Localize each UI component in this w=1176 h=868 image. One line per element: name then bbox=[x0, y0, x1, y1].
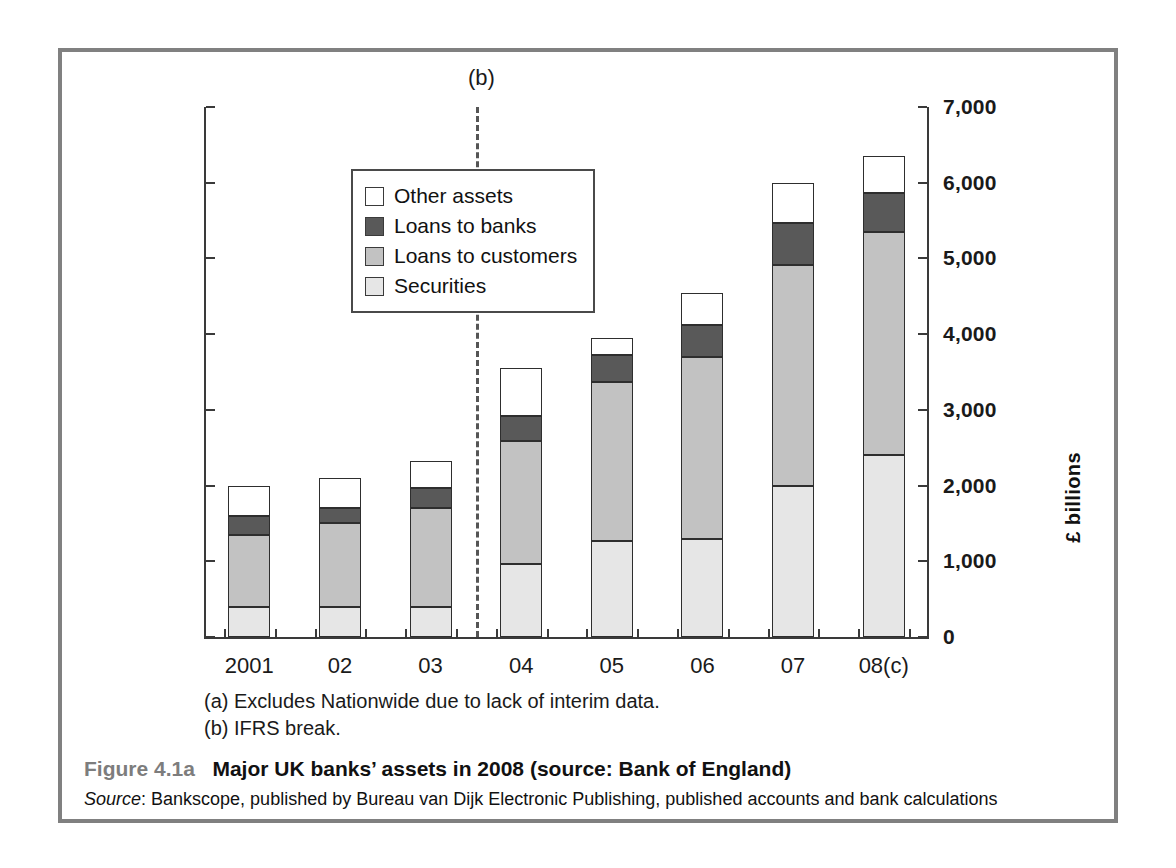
bar-segment-loans-to-customers bbox=[319, 523, 361, 606]
y-tick-label: 6,000 bbox=[943, 171, 997, 195]
bar-segment-loans-to-banks bbox=[863, 193, 905, 232]
caption-block: Figure 4.1a Major UK banks’ assets in 20… bbox=[84, 757, 1104, 810]
bar-segment-loans-to-banks bbox=[410, 488, 452, 508]
y-tick-label: 7,000 bbox=[943, 95, 997, 119]
y-tick-left bbox=[206, 560, 215, 562]
x-tick bbox=[547, 629, 549, 639]
y-tick-right bbox=[918, 182, 927, 184]
bar-02 bbox=[319, 478, 361, 637]
bar-segment-loans-to-customers bbox=[228, 535, 270, 607]
figure-caption-title: Major UK banks’ assets in 2008 (source: … bbox=[212, 757, 791, 780]
bar-03 bbox=[410, 461, 452, 637]
bar-08c bbox=[863, 156, 905, 637]
bar-segment-loans-to-customers bbox=[591, 382, 633, 541]
bar-segment-other-assets bbox=[591, 338, 633, 355]
y-tick-right bbox=[918, 257, 927, 259]
legend-swatch-loans-to-banks bbox=[365, 217, 384, 236]
bar-segment-securities bbox=[681, 539, 723, 637]
bar-segment-other-assets bbox=[319, 478, 361, 508]
legend-swatch-loans-to-customers bbox=[365, 247, 384, 266]
figure-frame: 01,0002,0003,0004,0005,0006,0007,000 200… bbox=[58, 48, 1118, 823]
bar-06 bbox=[681, 293, 723, 638]
bar-segment-other-assets bbox=[681, 293, 723, 326]
ifrs-break-label: (b) bbox=[468, 65, 495, 91]
y-tick-label: 4,000 bbox=[943, 322, 997, 346]
y-tick-right bbox=[918, 636, 927, 638]
x-tick bbox=[677, 629, 679, 639]
x-tick bbox=[365, 629, 367, 639]
bar-segment-securities bbox=[863, 455, 905, 637]
y-tick-label: 0 bbox=[943, 625, 955, 649]
bar-segment-securities bbox=[319, 607, 361, 637]
legend-swatch-securities bbox=[365, 277, 384, 296]
bar-segment-loans-to-customers bbox=[500, 441, 542, 564]
x-tick bbox=[224, 629, 226, 639]
bar-segment-loans-to-customers bbox=[863, 232, 905, 455]
legend-label-securities: Securities bbox=[394, 274, 486, 298]
x-tick bbox=[909, 629, 911, 639]
x-tick bbox=[858, 629, 860, 639]
y-tick-left bbox=[206, 485, 215, 487]
bar-segment-loans-to-banks bbox=[591, 355, 633, 382]
y-tick-label: 3,000 bbox=[943, 398, 997, 422]
bar-segment-loans-to-customers bbox=[772, 265, 814, 486]
bar-segment-loans-to-banks bbox=[319, 508, 361, 523]
y-tick-left bbox=[206, 182, 215, 184]
y-axis-title: £ billions bbox=[1062, 452, 1085, 543]
y-tick-label: 1,000 bbox=[943, 549, 997, 573]
legend-item-loans-to-customers: Loans to customers bbox=[365, 241, 577, 271]
bar-segment-loans-to-banks bbox=[772, 223, 814, 265]
bar-04 bbox=[500, 368, 542, 637]
y-tick-left bbox=[206, 333, 215, 335]
legend-swatch-other-assets bbox=[365, 187, 384, 206]
x-tick bbox=[496, 629, 498, 639]
legend-label-loans-to-customers: Loans to customers bbox=[394, 244, 577, 268]
legend-item-other-assets: Other assets bbox=[365, 181, 577, 211]
bar-segment-loans-to-banks bbox=[500, 416, 542, 441]
source-label: Source bbox=[84, 789, 141, 809]
y-tick-left bbox=[206, 409, 215, 411]
figure-source: Source: Bankscope, published by Bureau v… bbox=[84, 789, 1104, 810]
bar-segment-loans-to-customers bbox=[681, 357, 723, 539]
legend-item-loans-to-banks: Loans to banks bbox=[365, 211, 577, 241]
x-tick bbox=[586, 629, 588, 639]
bar-segment-securities bbox=[772, 486, 814, 637]
bar-segment-loans-to-banks bbox=[681, 325, 723, 357]
bar-segment-other-assets bbox=[228, 486, 270, 516]
x-tick bbox=[405, 629, 407, 639]
y-tick-label: 5,000 bbox=[943, 246, 997, 270]
y-tick-left bbox=[206, 106, 215, 108]
legend-label-loans-to-banks: Loans to banks bbox=[394, 214, 536, 238]
note-a: (a) Excludes Nationwide due to lack of i… bbox=[204, 688, 660, 715]
y-tick-right bbox=[918, 560, 927, 562]
x-tick-label-08c: 08(c) bbox=[824, 653, 944, 679]
figure-caption: Figure 4.1a Major UK banks’ assets in 20… bbox=[84, 757, 1104, 781]
y-axis-right-line bbox=[927, 107, 929, 639]
legend-item-securities: Securities bbox=[365, 271, 577, 301]
bar-2001 bbox=[228, 486, 270, 637]
x-tick bbox=[456, 629, 458, 639]
bar-segment-securities bbox=[500, 564, 542, 637]
note-b: (b) IFRS break. bbox=[204, 715, 660, 742]
x-tick bbox=[275, 629, 277, 639]
bar-segment-securities bbox=[410, 607, 452, 637]
x-tick bbox=[768, 629, 770, 639]
plot-area: 01,0002,0003,0004,0005,0006,0007,000 200… bbox=[204, 107, 929, 637]
bar-segment-other-assets bbox=[772, 183, 814, 223]
bar-07 bbox=[772, 183, 814, 637]
bar-segment-loans-to-customers bbox=[410, 508, 452, 606]
bar-segment-other-assets bbox=[863, 156, 905, 193]
y-tick-left bbox=[206, 636, 215, 638]
bar-segment-other-assets bbox=[500, 368, 542, 416]
chart-area: 01,0002,0003,0004,0005,0006,0007,000 200… bbox=[62, 52, 1122, 827]
bar-05 bbox=[591, 338, 633, 637]
legend-label-other-assets: Other assets bbox=[394, 184, 513, 208]
x-tick bbox=[637, 629, 639, 639]
y-tick-right bbox=[918, 409, 927, 411]
x-tick bbox=[728, 629, 730, 639]
y-axis-left-line bbox=[204, 107, 206, 639]
y-tick-left bbox=[206, 257, 215, 259]
x-tick bbox=[315, 629, 317, 639]
bar-segment-securities bbox=[228, 607, 270, 637]
x-tick bbox=[818, 629, 820, 639]
